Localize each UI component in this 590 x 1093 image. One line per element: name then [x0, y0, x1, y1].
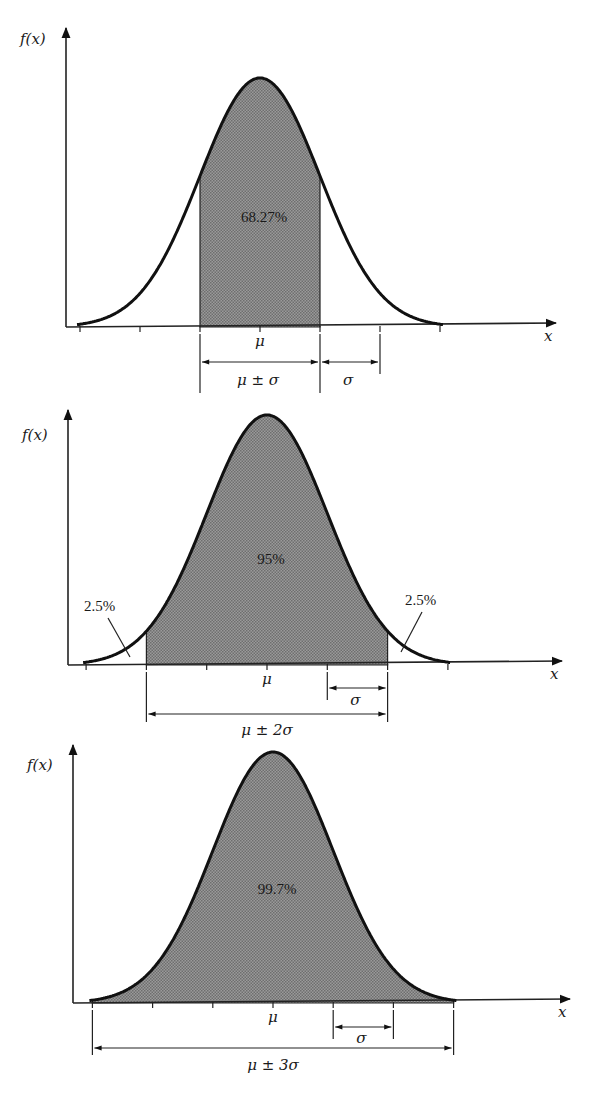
- right-tail-label: 2.5%: [405, 592, 436, 608]
- range-label: μ ± 2σ: [241, 721, 293, 739]
- chart-3-three-sigma: f(x)xμ99.7%σμ ± 3σ: [26, 745, 570, 1074]
- range-label: μ ± σ: [237, 371, 280, 389]
- y-axis-label: f(x): [19, 30, 46, 48]
- chart-2-two-sigma: f(x)xμ95%σμ ± 2σ2.5%2.5%: [21, 410, 562, 739]
- range-label: μ ± 3σ: [247, 1056, 299, 1074]
- x-axis-label: x: [558, 1003, 567, 1021]
- shaded-area: [146, 415, 387, 665]
- left-tail-label: 2.5%: [84, 598, 115, 614]
- right-tail-leader: [401, 612, 422, 652]
- shaded-percent-label: 95%: [257, 551, 285, 567]
- mu-label: μ: [262, 670, 272, 688]
- shaded-percent-label: 99.7%: [258, 881, 297, 897]
- sigma-label: σ: [343, 371, 354, 389]
- shaded-area: [92, 752, 453, 1003]
- shaded-area: [200, 78, 320, 327]
- sigma-label: σ: [350, 691, 361, 709]
- chart-1-sigma: f(x)xμ68.27%μ ± σσ: [19, 28, 556, 393]
- y-axis-label: f(x): [26, 756, 53, 774]
- sigma-label: σ: [356, 1029, 367, 1047]
- shaded-percent-label: 68.27%: [241, 209, 287, 225]
- normal-distribution-diagram: f(x)xμ68.27%μ ± σσ f(x)xμ95%σμ ± 2σ2.5%2…: [0, 0, 590, 1093]
- mu-label: μ: [255, 332, 265, 350]
- y-axis-label: f(x): [21, 426, 48, 444]
- x-axis-label: x: [550, 665, 559, 683]
- x-axis-label: x: [544, 327, 553, 345]
- mu-label: μ: [268, 1008, 278, 1026]
